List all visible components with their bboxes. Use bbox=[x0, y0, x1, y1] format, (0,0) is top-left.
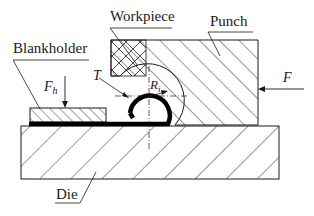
blankholder bbox=[30, 108, 106, 122]
thickness-label: T bbox=[93, 68, 102, 83]
blankholder-force-label: Fh bbox=[43, 79, 58, 96]
punch-label: Punch bbox=[210, 13, 248, 29]
punch-force-label: F bbox=[282, 70, 292, 85]
die-label: Die bbox=[56, 186, 78, 202]
workpiece-label: Workpiece bbox=[110, 8, 175, 24]
punch-force: F bbox=[258, 70, 304, 92]
blankholder-callout: Blankholder bbox=[13, 40, 89, 109]
blankholder-label: Blankholder bbox=[13, 40, 87, 56]
punch bbox=[111, 40, 258, 125]
die bbox=[21, 126, 279, 179]
curling-process-diagram: Ri T Fh F Workpiece Punch Blankholder bbox=[0, 0, 314, 216]
blankholder-force: Fh bbox=[43, 76, 68, 108]
